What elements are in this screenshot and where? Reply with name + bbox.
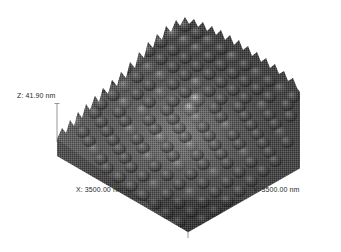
x-axis-label: X: 3500.00 nm [76,185,123,194]
y-axis-label: Y: 3500.00 nm [253,185,299,194]
surface-mesh [50,10,310,242]
surface-plot-viewer[interactable]: Z: 41.90 nm X: 3500.00 nm Y: 3500.00 nm [0,0,341,252]
surface-plot-canvas [0,0,341,252]
z-axis-label: Z: 41.90 nm [17,91,55,100]
